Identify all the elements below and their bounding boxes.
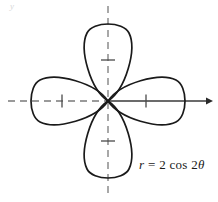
equation-annotation: r = 2 cos 2θ (139, 157, 205, 173)
equation-lhs: r (139, 157, 144, 172)
equation-function-name: cos (170, 157, 188, 172)
polar-rose-figure: y r = 2 cos 2θ (0, 0, 218, 202)
equation-equals: = (148, 157, 156, 172)
equation-amplitude: 2 (159, 157, 166, 172)
axis-arrowhead-icon (206, 97, 213, 104)
equation-theta-symbol: θ (198, 157, 205, 172)
